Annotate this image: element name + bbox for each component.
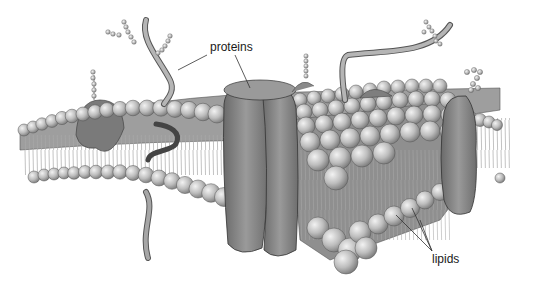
lipids-label: lipids [432, 252, 459, 266]
sugar-chain [106, 20, 173, 56]
cell-membrane-diagram: proteins lipids [0, 0, 538, 286]
transmembrane-protein-center [224, 80, 299, 256]
proteins-label: proteins [210, 40, 253, 54]
membrane-illustration [0, 0, 538, 286]
proteins-leader-to-glycoprotein [178, 55, 207, 70]
